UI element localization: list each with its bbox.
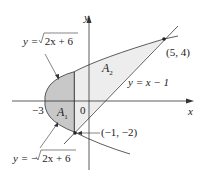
label-prefix: y = xyxy=(23,35,41,47)
region-a2-label: A2 xyxy=(102,62,113,77)
pointer-lower-label xyxy=(40,124,57,148)
x-axis-label: x xyxy=(188,106,193,117)
label-point-5-4: (5, 4) xyxy=(166,47,190,58)
diagram-canvas xyxy=(0,0,203,176)
label-lower-curve: y = −2x + 6 xyxy=(13,153,70,164)
label-point-neg1-neg2: (−1, −2) xyxy=(101,127,137,138)
point-5-4 xyxy=(162,37,166,41)
label-upper-curve: y = 2x + 6 xyxy=(23,36,73,47)
pointer-upper-label xyxy=(45,54,58,78)
region-label-sub: 2 xyxy=(109,69,113,77)
label-line: y = x − 1 xyxy=(128,77,169,88)
x-axis-arrow-icon xyxy=(186,99,194,104)
origin-label: 0 xyxy=(80,105,86,116)
point-neg1-neg2 xyxy=(73,131,77,135)
region-label-sub: 1 xyxy=(64,113,68,121)
y-axis-label: y xyxy=(84,12,89,23)
region-a1-label: A1 xyxy=(57,106,68,121)
region-a1 xyxy=(45,72,74,132)
x-tick-label: −3 xyxy=(32,105,44,116)
label-radicand: 2x + 6 xyxy=(38,152,70,164)
label-radicand: 2x + 6 xyxy=(41,35,73,47)
label-prefix: y = − xyxy=(13,152,38,164)
